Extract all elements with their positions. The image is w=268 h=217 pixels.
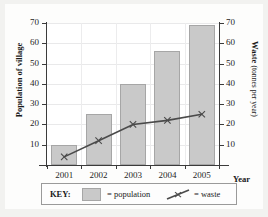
y-axis-right-tick xyxy=(220,64,224,65)
legend-swatch-population xyxy=(82,188,101,201)
x-axis-tick xyxy=(47,165,48,169)
y-axis-right-tick xyxy=(220,23,224,24)
x-axis-label-2005: 2005 xyxy=(185,170,219,180)
y-axis-right-title: Waste (tonnes per year) xyxy=(250,19,260,139)
y-axis-left-tick xyxy=(42,124,46,125)
x-axis-tick xyxy=(116,165,117,169)
x-axis-tick xyxy=(150,165,151,169)
chart-card: Population of village Waste (tonnes per … xyxy=(5,4,263,209)
y-axis-right-tick xyxy=(220,43,224,44)
y-axis-right-label: 70 xyxy=(226,17,242,27)
x-axis-line xyxy=(39,165,229,166)
y-axis-right-title-units: (tonnes per year) xyxy=(250,65,259,116)
y-axis-left-label: 40 xyxy=(23,78,39,88)
x-axis-tick xyxy=(219,165,220,169)
chart-legend: KEY: = population = waste xyxy=(41,183,237,205)
y-axis-left-tick xyxy=(42,23,46,24)
y-axis-left-tick xyxy=(42,64,46,65)
y-axis-right-label: 40 xyxy=(226,78,242,88)
waste-line-path xyxy=(64,114,202,157)
legend-label-waste: = waste xyxy=(194,189,220,199)
y-axis-left-label: 10 xyxy=(23,139,39,149)
y-axis-left-tick xyxy=(42,104,46,105)
x-axis-label-2001: 2001 xyxy=(47,170,81,180)
y-axis-left-tick xyxy=(42,145,46,146)
x-axis-label-2004: 2004 xyxy=(150,170,184,180)
y-axis-right-label: 60 xyxy=(226,37,242,47)
y-axis-right-tick xyxy=(220,104,224,105)
x-axis-tick xyxy=(185,165,186,169)
chart-page: Population of village Waste (tonnes per … xyxy=(0,0,268,217)
x-axis-label-2002: 2002 xyxy=(82,170,116,180)
x-axis-label-2003: 2003 xyxy=(116,170,150,180)
legend-label-population: = population xyxy=(107,189,150,199)
y-axis-right-title-main: Waste xyxy=(250,41,260,63)
waste-marker-2001 xyxy=(61,154,67,160)
y-axis-left-tick xyxy=(42,84,46,85)
y-axis-right-tick xyxy=(220,145,224,146)
line-series-waste xyxy=(47,23,219,165)
waste-marker-2002 xyxy=(95,137,101,143)
y-axis-left-label: 20 xyxy=(23,118,39,128)
chart-figure: Population of village Waste (tonnes per … xyxy=(5,8,263,168)
legend-title: KEY: xyxy=(50,189,70,199)
y-axis-left-tick xyxy=(42,43,46,44)
y-axis-right-label: 50 xyxy=(226,58,242,68)
legend-line-waste xyxy=(166,188,190,201)
y-axis-left-label: 70 xyxy=(23,17,39,27)
y-axis-right-label: 10 xyxy=(226,139,242,149)
y-axis-left-label: 30 xyxy=(23,98,39,108)
y-axis-right-label: 20 xyxy=(226,118,242,128)
y-axis-left-label: 50 xyxy=(23,58,39,68)
x-axis-tick xyxy=(81,165,82,169)
y-axis-right-label: 30 xyxy=(226,98,242,108)
y-axis-right-tick xyxy=(220,124,224,125)
y-axis-right-tick xyxy=(220,84,224,85)
y-axis-left-label: 60 xyxy=(23,37,39,47)
